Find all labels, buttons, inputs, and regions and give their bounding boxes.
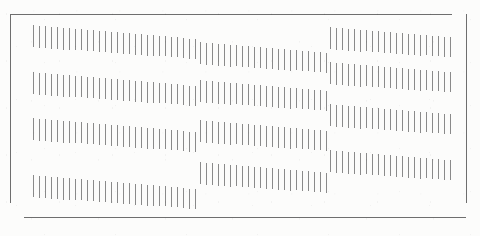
tick-mark — [123, 80, 124, 101]
tick-mark — [230, 123, 231, 145]
tick-mark — [75, 122, 76, 143]
tick-mark — [63, 75, 64, 97]
tick-mark — [308, 129, 309, 149]
tick-mark — [444, 37, 445, 57]
tick-mark — [212, 121, 213, 143]
tick-mark — [141, 184, 142, 205]
tick-mark — [51, 120, 52, 142]
tick-mark — [69, 121, 70, 143]
tick-mark — [438, 113, 439, 133]
tick-mark — [123, 33, 124, 54]
tick-mark — [366, 153, 367, 174]
tick-mark — [396, 110, 397, 131]
tick-mark — [272, 86, 273, 107]
tick-mark — [218, 44, 219, 66]
tick-mark — [105, 124, 106, 145]
tick-mark — [260, 85, 261, 106]
tick-mark — [57, 177, 58, 199]
tick-mark — [254, 167, 255, 188]
tick-mark — [254, 125, 255, 146]
tick-mark — [135, 34, 136, 55]
tick-mark — [236, 83, 237, 104]
tick-mark — [39, 119, 40, 141]
tick-mark — [396, 68, 397, 89]
tick-mark — [242, 46, 243, 67]
tick-mark — [308, 51, 309, 71]
tick-mark — [129, 183, 130, 204]
tick-mark — [69, 178, 70, 200]
tick-mark — [147, 82, 148, 103]
tick-mark — [348, 29, 349, 51]
tick-mark — [45, 26, 46, 48]
tick-mark — [302, 129, 303, 149]
tick-mark — [33, 118, 34, 140]
tick-mark — [260, 125, 261, 146]
tick-mark — [159, 129, 160, 149]
tick-mark — [360, 30, 361, 52]
tick-mark — [99, 124, 100, 145]
tick-mark — [402, 156, 403, 177]
tick-mark — [189, 189, 190, 209]
tick-mark — [75, 76, 76, 97]
tick-mark — [354, 64, 355, 86]
tick-mark — [266, 126, 267, 147]
tick-mark — [93, 30, 94, 51]
tick-mark — [206, 81, 207, 103]
tick-mark — [57, 120, 58, 142]
tick-mark — [402, 33, 403, 54]
tick-mark — [420, 158, 421, 179]
tick-mark — [212, 43, 213, 65]
tick-mark — [336, 28, 337, 50]
tick-mark — [384, 32, 385, 53]
tick-mark — [372, 66, 373, 87]
tick-mark — [348, 152, 349, 174]
tick-mark — [165, 83, 166, 103]
tick-mark — [396, 156, 397, 177]
tick-mark — [51, 27, 52, 49]
tick-mark — [69, 28, 70, 50]
tick-mark — [342, 105, 343, 127]
tick-mark — [302, 171, 303, 191]
tick-mark — [81, 29, 82, 50]
tick-mark — [87, 30, 88, 51]
tick-mark — [81, 76, 82, 97]
tick-mark — [111, 32, 112, 53]
tick-mark — [314, 90, 315, 110]
tick-mark — [183, 85, 184, 105]
tick-mark — [117, 182, 118, 203]
tick-mark — [212, 163, 213, 185]
tick-mark — [117, 125, 118, 146]
tick-mark — [206, 121, 207, 143]
tick-mark — [326, 173, 327, 193]
tick-mark — [206, 43, 207, 65]
tick-mark — [195, 132, 196, 152]
tick-mark — [272, 168, 273, 189]
tick-mark — [360, 65, 361, 87]
tick-mark — [236, 123, 237, 144]
tick-mark — [384, 109, 385, 130]
tick-mark — [45, 119, 46, 141]
tick-mark — [408, 34, 409, 55]
tick-mark — [242, 166, 243, 187]
tick-mark — [39, 26, 40, 48]
tick-mark — [278, 49, 279, 70]
tick-mark — [320, 90, 321, 110]
tick-mark — [105, 181, 106, 202]
tick-mark — [444, 72, 445, 92]
tick-mark — [63, 121, 64, 143]
tick-mark — [87, 77, 88, 98]
tick-mark — [266, 48, 267, 69]
tick-mark — [384, 67, 385, 88]
tick-mark — [402, 110, 403, 131]
tick-mark — [360, 107, 361, 129]
tick-mark — [200, 162, 201, 184]
tick-mark — [75, 179, 76, 200]
tick-mark — [51, 177, 52, 199]
tick-mark — [39, 176, 40, 198]
tick-mark — [354, 29, 355, 51]
tick-mark — [336, 105, 337, 127]
tick-mark — [99, 181, 100, 202]
tick-mark — [414, 69, 415, 90]
tick-mark — [444, 114, 445, 134]
tick-mark — [105, 78, 106, 99]
